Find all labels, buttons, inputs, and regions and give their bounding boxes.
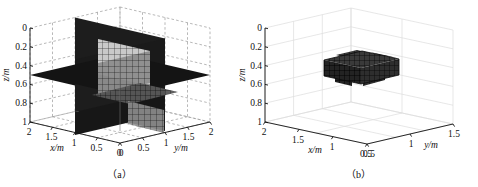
x-axis-label-b: x/m bbox=[307, 145, 322, 155]
z-tick-4: 0.8 bbox=[15, 98, 27, 108]
z-tick-b-1: 0.2 bbox=[250, 42, 262, 52]
plot-panel-b: 0 0.2 0.4 0.6 0.8 1 z/m 2 1.5 1 0.5 x/m bbox=[239, 0, 478, 187]
z-tick-3: 0.6 bbox=[15, 79, 27, 89]
panel-b-caption: （b） bbox=[239, 166, 478, 181]
z-axis-b: 0 0.2 0.4 0.6 0.8 1 z/m bbox=[239, 23, 268, 127]
intersecting-planes-a bbox=[30, 18, 210, 136]
y-tick-b-1: 1 bbox=[409, 139, 414, 149]
y-tick-0: 0 bbox=[119, 148, 124, 158]
z-tick-0: 0 bbox=[22, 23, 27, 33]
z-tick-b-5: 1 bbox=[257, 117, 262, 127]
x-axis-label-a: x/m bbox=[49, 143, 64, 153]
x-tick-b-0: 2 bbox=[262, 127, 267, 137]
x-tick-3: 0.5 bbox=[91, 143, 103, 153]
plot-b-svg: 0 0.2 0.4 0.6 0.8 1 z/m 2 1.5 1 0.5 x/m bbox=[239, 0, 478, 187]
y-tick-2: 1 bbox=[164, 138, 169, 148]
y-tick-b-0: 0.5 bbox=[363, 149, 375, 159]
x-tick-0: 2 bbox=[27, 127, 32, 137]
x-tick-1: 1.5 bbox=[46, 132, 58, 142]
panel-a-caption: （a） bbox=[0, 166, 239, 181]
plot-a-svg: 0 0.2 0.4 0.6 0.8 1 z/m 2 1.5 1 0.5 0 x/… bbox=[0, 0, 239, 187]
x-axis-b: 2 1.5 1 0.5 x/m bbox=[262, 122, 373, 159]
x-tick-2: 1 bbox=[72, 138, 77, 148]
z-tick-5: 1 bbox=[22, 117, 27, 127]
z-axis-a: 0 0.2 0.4 0.6 0.8 1 z/m bbox=[1, 23, 33, 127]
z-tick-1: 0.2 bbox=[15, 42, 27, 52]
plot-panel-a: 0 0.2 0.4 0.6 0.8 1 z/m 2 1.5 1 0.5 0 x/… bbox=[0, 0, 239, 187]
voxel-cluster-b bbox=[324, 50, 399, 86]
y-tick-3: 1.5 bbox=[183, 132, 195, 142]
x-tick-b-1: 1.5 bbox=[292, 135, 304, 145]
y-tick-4: 2 bbox=[209, 127, 214, 137]
z-axis-label-b: z/m bbox=[239, 68, 247, 82]
z-tick-b-0: 0 bbox=[257, 23, 262, 33]
z-tick-b-3: 0.6 bbox=[250, 79, 262, 89]
y-tick-b-2: 1.5 bbox=[448, 129, 460, 139]
z-tick-2: 0.4 bbox=[15, 61, 27, 71]
z-axis-label-a: z/m bbox=[1, 68, 11, 82]
z-tick-b-2: 0.4 bbox=[250, 61, 262, 71]
y-axis-label-b: y/m bbox=[423, 140, 438, 150]
y-tick-1: 0.5 bbox=[138, 143, 150, 153]
x-tick-b-2: 1 bbox=[330, 142, 335, 152]
axis-lines-b bbox=[265, 28, 453, 144]
z-tick-b-4: 0.8 bbox=[250, 98, 262, 108]
y-axis-label-a: y/m bbox=[173, 143, 188, 153]
